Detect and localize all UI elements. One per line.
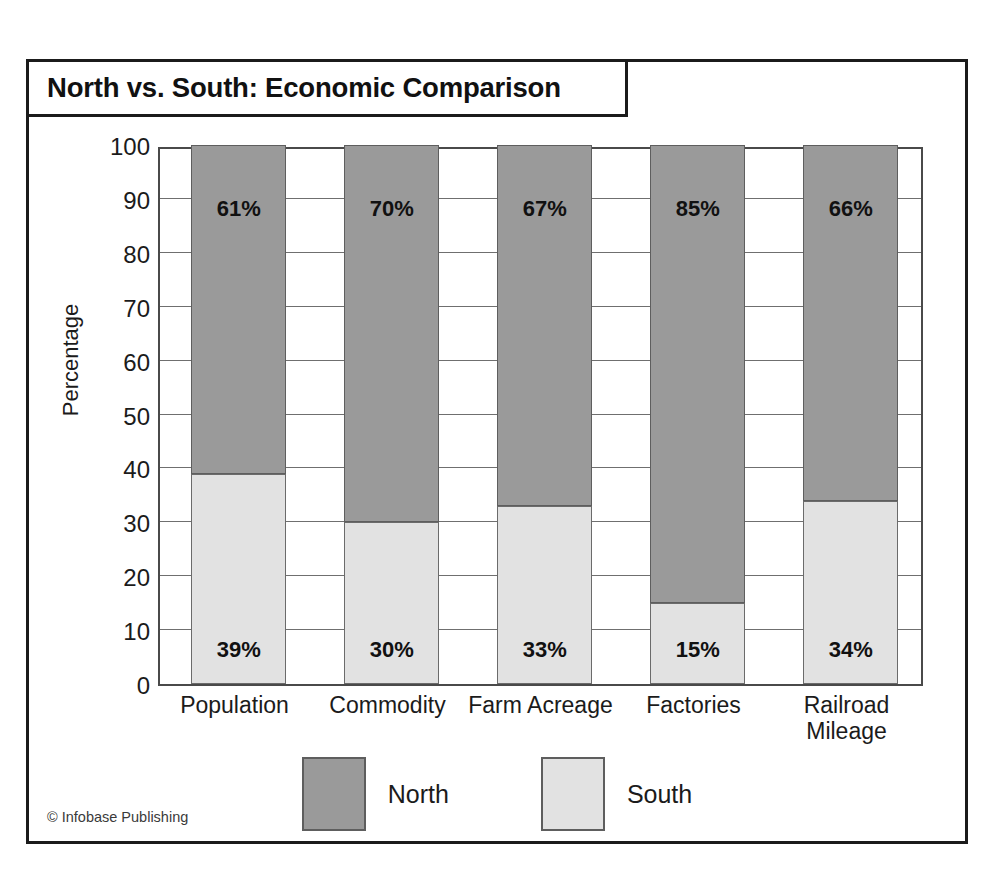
bar-value-label-north: 61% [192, 198, 285, 220]
x-tick-label: Farm Acreage [464, 692, 617, 718]
x-tick-label-line: Factories [617, 692, 770, 718]
legend-item[interactable]: South [541, 757, 692, 831]
x-tick-label-line: Farm Acreage [464, 692, 617, 718]
y-tick-label: 100 [90, 135, 150, 159]
bar-segment-north[interactable]: 66% [803, 145, 898, 501]
x-tick-label: RailroadMileage [770, 692, 923, 745]
y-tick-label: 0 [90, 674, 150, 698]
bar-value-label-north: 66% [804, 198, 897, 220]
bar-value-label-south: 39% [192, 639, 285, 661]
x-tick-label-line: Mileage [770, 718, 923, 744]
copyright-notice: © Infobase Publishing [47, 809, 188, 825]
y-tick-label: 50 [90, 405, 150, 429]
y-tick-label: 40 [90, 458, 150, 482]
x-tick-label-line: Commodity [311, 692, 464, 718]
bar-group[interactable]: 39%61% [191, 149, 286, 684]
figure-frame: North vs. South: Economic Comparison Per… [26, 59, 968, 844]
bar-group[interactable]: 30%70% [344, 149, 439, 684]
x-tick-label-line: Population [158, 692, 311, 718]
bar-value-label-north: 70% [345, 198, 438, 220]
legend-label: North [388, 780, 449, 809]
bar-value-label-south: 30% [345, 639, 438, 661]
y-axis-ticks: 1009080706050403020100 [84, 147, 150, 686]
bar-segment-north[interactable]: 70% [344, 145, 439, 522]
x-tick-label: Commodity [311, 692, 464, 718]
y-tick-label: 70 [90, 297, 150, 321]
bar-value-label-south: 34% [804, 639, 897, 661]
y-tick-label: 90 [90, 189, 150, 213]
plot-area: 39%61%30%70%33%67%15%85%34%66% [158, 147, 923, 686]
bar-segment-south[interactable]: 39% [191, 474, 286, 684]
legend-swatch [541, 757, 605, 831]
bar-segment-south[interactable]: 15% [650, 603, 745, 684]
legend-swatch [302, 757, 366, 831]
y-tick-label: 80 [90, 243, 150, 267]
bar-value-label-south: 33% [498, 639, 591, 661]
legend-label: South [627, 780, 692, 809]
bar-segment-south[interactable]: 33% [497, 506, 592, 684]
bar-segment-south[interactable]: 34% [803, 501, 898, 684]
bar-value-label-north: 85% [651, 198, 744, 220]
plot-wrapper: Percentage 1009080706050403020100 39%61%… [29, 62, 965, 841]
x-tick-label: Factories [617, 692, 770, 718]
legend-item[interactable]: North [302, 757, 449, 831]
bar-segment-north[interactable]: 67% [497, 145, 592, 506]
y-tick-label: 10 [90, 620, 150, 644]
bar-segment-north[interactable]: 61% [191, 145, 286, 474]
y-tick-label: 60 [90, 351, 150, 375]
bar-group[interactable]: 15%85% [650, 149, 745, 684]
bar-value-label-south: 15% [651, 639, 744, 661]
y-tick-label: 20 [90, 566, 150, 590]
bar-group[interactable]: 33%67% [497, 149, 592, 684]
y-tick-label: 30 [90, 512, 150, 536]
bar-group[interactable]: 34%66% [803, 149, 898, 684]
bar-segment-south[interactable]: 30% [344, 522, 439, 684]
bar-segment-north[interactable]: 85% [650, 145, 745, 603]
y-axis-title: Percentage [58, 270, 84, 450]
bar-value-label-north: 67% [498, 198, 591, 220]
x-tick-label-line: Railroad [770, 692, 923, 718]
x-tick-label: Population [158, 692, 311, 718]
